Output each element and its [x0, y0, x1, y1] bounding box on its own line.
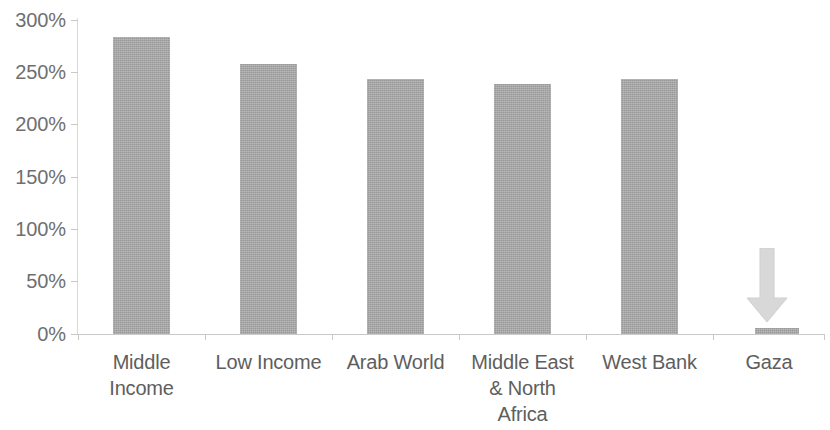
x-axis-tick	[713, 334, 714, 340]
y-axis-tick-label: 150%	[0, 167, 66, 187]
x-axis-category-label-2: Arab World	[332, 349, 459, 375]
x-axis-category-label-4: West Bank	[586, 349, 713, 375]
y-axis-tick	[71, 124, 78, 125]
x-axis-tick	[824, 334, 825, 340]
y-axis-tick	[71, 177, 78, 178]
category-line: Low Income	[205, 349, 332, 375]
y-axis-tick	[71, 334, 78, 335]
y-axis-tick	[71, 72, 78, 73]
x-axis-tick	[586, 334, 587, 340]
bar-arab-world[interactable]	[367, 79, 424, 334]
y-axis-tick-label: 200%	[0, 114, 66, 134]
category-line: Income	[78, 375, 205, 401]
x-axis-category-label-0: Middle Income	[78, 349, 205, 401]
category-line: Africa	[459, 401, 586, 427]
x-axis-category-label-5: Gaza	[713, 349, 825, 375]
bar-west-bank[interactable]	[621, 79, 678, 334]
y-axis-tick-label: 300%	[0, 10, 66, 30]
category-line: Gaza	[713, 349, 825, 375]
y-axis-tick	[71, 20, 78, 21]
x-axis-tick	[332, 334, 333, 340]
plot-area	[78, 20, 830, 334]
bar-low-income[interactable]	[240, 64, 297, 334]
y-axis-tick-label: 0%	[0, 324, 66, 344]
x-axis-tick	[459, 334, 460, 340]
y-axis-tick	[71, 229, 78, 230]
x-axis-category-label-1: Low Income	[205, 349, 332, 375]
category-line: West Bank	[586, 349, 713, 375]
y-axis-tick	[71, 281, 78, 282]
x-axis-category-label-3: Middle East & North Africa	[459, 349, 586, 427]
x-axis-tick	[205, 334, 206, 340]
bar-chart: 300% 250% 200% 150% 100% 50% 0%	[0, 0, 830, 430]
bar-gaza[interactable]	[755, 328, 799, 334]
y-axis-tick-label: 100%	[0, 219, 66, 239]
category-line: Middle	[78, 349, 205, 375]
bar-middle-income[interactable]	[113, 37, 170, 334]
bar-middle-east-north-africa[interactable]	[494, 84, 551, 334]
x-axis-tick	[78, 334, 79, 340]
category-line: Arab World	[332, 349, 459, 375]
category-line: Middle East	[459, 349, 586, 375]
y-axis-tick-label: 50%	[0, 271, 66, 291]
y-axis-tick-label: 250%	[0, 62, 66, 82]
category-line: & North	[459, 375, 586, 401]
